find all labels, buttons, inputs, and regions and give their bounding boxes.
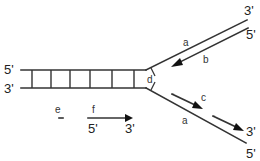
label-parent-top-5prime: 5' (4, 62, 14, 77)
label-parent-bottom-3prime: 3' (4, 81, 14, 96)
label-upper-arm-5prime: 5' (246, 27, 256, 42)
parental-duplex (21, 70, 146, 88)
strand-b-arrowhead (171, 58, 183, 67)
replication-fork-diagram: 5' 3' 3' 5' 3' 5' 5' 3' a a b c d e f (0, 0, 260, 161)
label-b: b (203, 54, 209, 65)
label-upper-arm-3prime: 3' (244, 3, 254, 18)
label-e: e (55, 104, 61, 115)
upper-template-strand (146, 20, 247, 70)
label-primer-3prime: 3' (125, 121, 135, 136)
label-c: c (201, 92, 206, 103)
label-lower-arm-3prime: 3' (246, 124, 256, 139)
lower-template-strand (146, 88, 246, 143)
label-lower-arm-5prime: 5' (246, 146, 256, 161)
label-a-lower: a (182, 115, 188, 126)
label-primer-5prime: 5' (88, 121, 98, 136)
label-d: d (147, 74, 153, 85)
lower-fragment-arrowhead (233, 123, 244, 131)
label-f: f (92, 104, 95, 115)
label-a-upper: a (183, 37, 189, 48)
